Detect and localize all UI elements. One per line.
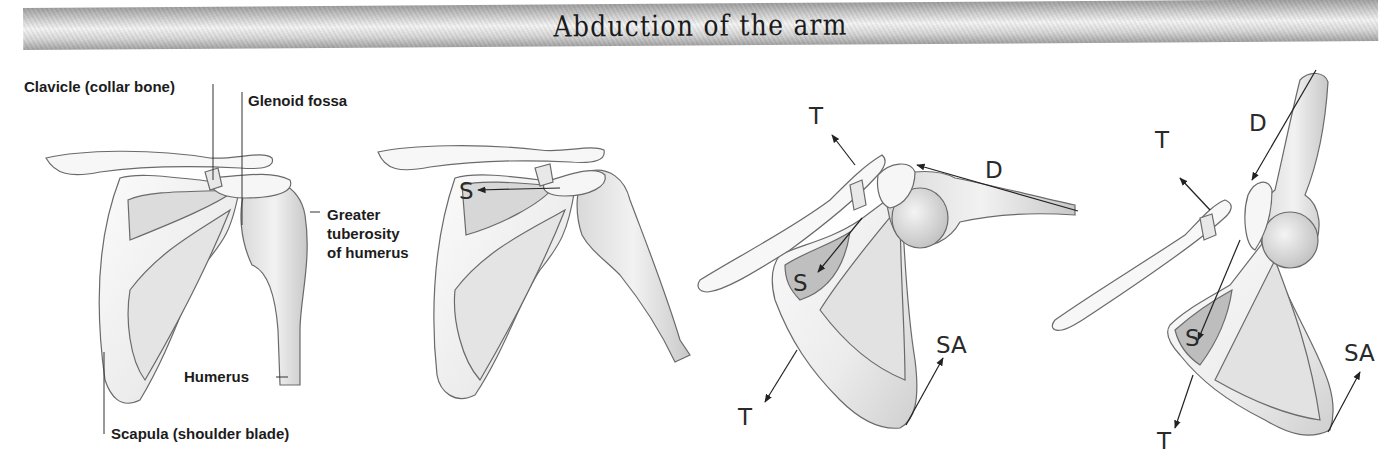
panel-4-t-upper-label: T <box>1155 127 1169 153</box>
greater-tuberosity-label-line1: Greater <box>327 205 380 224</box>
panel-3-bones <box>698 155 1075 428</box>
clavicle-label: Clavicle (collar bone) <box>24 77 175 96</box>
panel-3-t-lower-label: T <box>738 404 752 430</box>
t-upper-arrow <box>832 135 855 165</box>
panel-3-sa-label: SA <box>936 332 967 358</box>
greater-tuberosity-label-line3: of humerus <box>327 243 409 262</box>
panel-4-bones <box>1052 73 1333 435</box>
t-lower-arrow <box>1175 375 1193 428</box>
panel-1-bones <box>46 151 307 403</box>
t-upper-arrow <box>1180 178 1210 210</box>
panel-3-s-label: S <box>793 270 808 296</box>
scapula-label: Scapula (shoulder blade) <box>111 424 289 443</box>
shoulder-illustrations <box>0 0 1389 465</box>
panel-3-d-label: D <box>985 157 1003 183</box>
panel-2-bones <box>378 146 690 399</box>
panel-4-sa-label: SA <box>1344 340 1375 366</box>
panel-4-t-lower-label: T <box>1157 428 1171 454</box>
t-lower-arrow <box>765 350 797 402</box>
panel-3-t-upper-label: T <box>809 103 823 129</box>
panel-4-s-label: S <box>1185 325 1200 351</box>
panel-4-d-label: D <box>1249 110 1267 136</box>
glenoid-fossa-label: Glenoid fossa <box>248 91 347 110</box>
humerus-label: Humerus <box>184 367 249 386</box>
greater-tuberosity-label-line2: tuberosity <box>327 224 400 243</box>
panel-2-s-label: S <box>459 178 474 204</box>
